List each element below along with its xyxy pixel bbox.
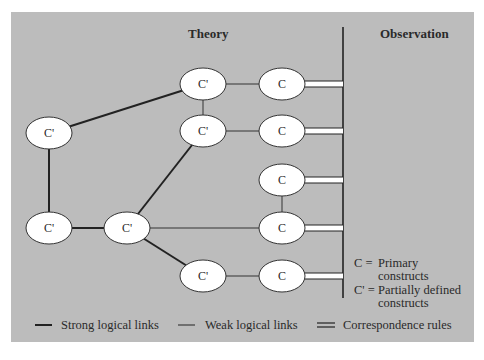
node-label: C' bbox=[44, 126, 54, 140]
key-c-symbol: C = bbox=[354, 256, 373, 270]
construct-node-c_4: C bbox=[259, 212, 305, 244]
observation-header: Observation bbox=[380, 26, 449, 41]
legend-weak-label: Weak logical links bbox=[205, 318, 298, 332]
legend-correspondence-label: Correspondence rules bbox=[343, 318, 452, 332]
construct-node-cp_top: C' bbox=[180, 68, 226, 100]
node-label: C' bbox=[44, 221, 54, 235]
node-label: C' bbox=[198, 269, 208, 283]
construct-node-cp_center: C' bbox=[104, 212, 150, 244]
key-cp-line1: Partially defined bbox=[378, 283, 462, 297]
construct-node-cp_left: C' bbox=[26, 117, 72, 149]
node-label: C bbox=[278, 124, 286, 138]
node-label: C bbox=[278, 221, 286, 235]
construct-node-c_1: C bbox=[259, 68, 305, 100]
construct-node-c_5: C bbox=[259, 260, 305, 292]
node-label: C bbox=[278, 269, 286, 283]
key-cp-symbol: C' = bbox=[354, 283, 375, 297]
construct-node-cp_mid_upper: C' bbox=[180, 115, 226, 147]
node-label: C' bbox=[122, 221, 132, 235]
node-label: C' bbox=[198, 77, 208, 91]
key-cp-line2: constructs bbox=[378, 296, 429, 310]
node-label: C bbox=[278, 173, 286, 187]
theory-header: Theory bbox=[188, 26, 229, 41]
key-c-line1: Primary bbox=[378, 256, 419, 270]
legend-strong-label: Strong logical links bbox=[61, 318, 159, 332]
node-label: C' bbox=[198, 124, 208, 138]
correspondence-rule-fill bbox=[304, 128, 343, 134]
construct-node-c_2: C bbox=[259, 115, 305, 147]
construct-node-c_3: C bbox=[259, 164, 305, 196]
node-label: C bbox=[278, 77, 286, 91]
construct-node-cp_lower: C' bbox=[180, 260, 226, 292]
correspondence-rule-fill bbox=[304, 225, 343, 231]
construct-node-cp_bottom_left: C' bbox=[26, 212, 72, 244]
correspondence-rule-fill bbox=[304, 177, 343, 183]
correspondence-rule-fill bbox=[304, 81, 343, 87]
theory-observation-diagram: Theory Observation C'CC'C'CCC'C'CC'C C =… bbox=[0, 0, 484, 360]
key-c-line2: constructs bbox=[378, 269, 429, 283]
correspondence-rule-fill bbox=[304, 273, 343, 279]
